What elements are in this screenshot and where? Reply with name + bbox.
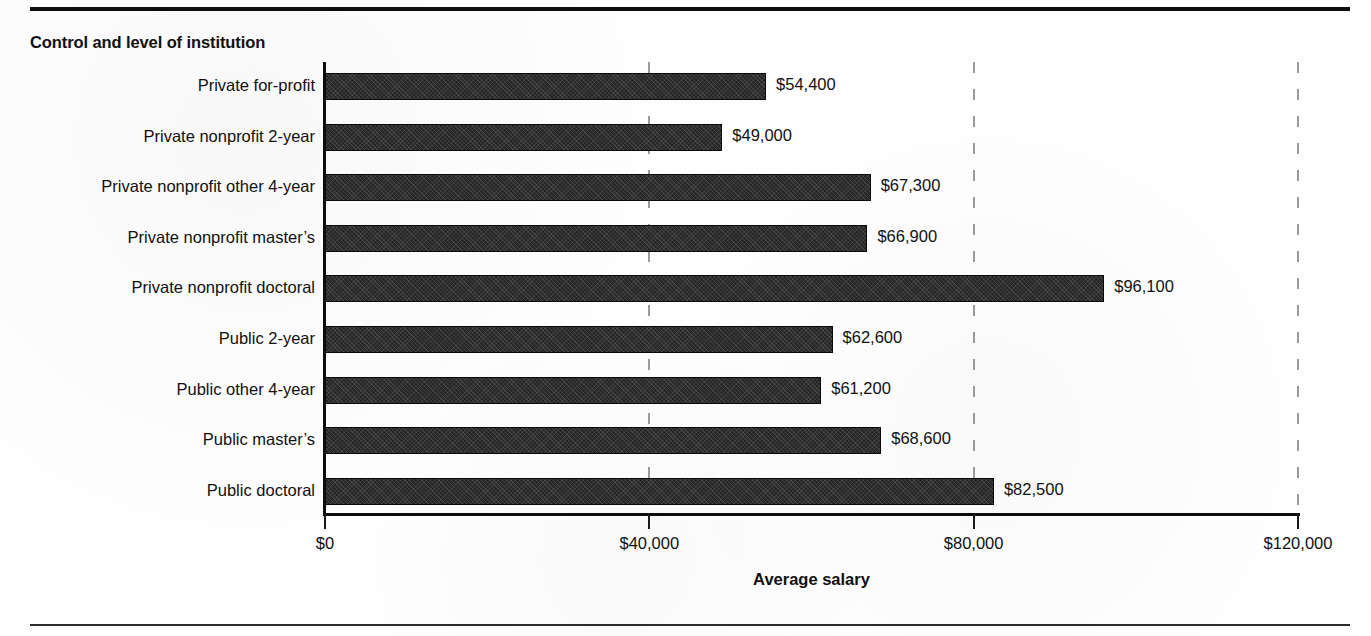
bottom-divider-rule (30, 624, 1350, 626)
x-axis-title: Average salary (325, 570, 1298, 589)
bar-value-label: $54,400 (776, 75, 836, 94)
category-label: Public doctoral (0, 481, 315, 500)
category-label: Private nonprofit master’s (0, 228, 315, 247)
category-label: Public other 4-year (0, 380, 315, 399)
bar[interactable] (325, 275, 1104, 302)
x-axis-line (323, 513, 1300, 516)
bar-value-label: $67,300 (881, 176, 941, 195)
bar[interactable] (325, 377, 821, 404)
x-axis-tick-label: $80,000 (944, 534, 1004, 553)
bar-value-label: $62,600 (843, 328, 903, 347)
bar-row: $68,600Public master’s (325, 427, 1298, 454)
category-label: Private nonprofit 2-year (0, 127, 315, 146)
bar-row: $96,100Private nonprofit doctoral (325, 275, 1298, 302)
bar-value-label: $49,000 (732, 126, 792, 145)
bar-value-label: $61,200 (831, 379, 891, 398)
x-axis-tick (1297, 513, 1299, 529)
bar-value-label: $66,900 (877, 227, 937, 246)
bar[interactable] (325, 478, 994, 505)
bar-row: $49,000Private nonprofit 2-year (325, 124, 1298, 151)
x-axis-tick-label: $120,000 (1264, 534, 1333, 553)
category-label: Private nonprofit doctoral (0, 278, 315, 297)
bar-row: $82,500Public doctoral (325, 478, 1298, 505)
x-axis-tick-label: $0 (316, 534, 334, 553)
bar-row: $67,300Private nonprofit other 4-year (325, 174, 1298, 201)
bar-value-label: $96,100 (1114, 277, 1174, 296)
bar[interactable] (325, 174, 871, 201)
bar[interactable] (325, 225, 867, 252)
bar[interactable] (325, 326, 833, 353)
bar-row: $54,400Private for-profit (325, 73, 1298, 100)
category-label: Private for-profit (0, 76, 315, 95)
bar-row: $66,900Private nonprofit master’s (325, 225, 1298, 252)
x-axis-tick (973, 513, 975, 529)
category-label: Public master’s (0, 430, 315, 449)
category-axis-title: Control and level of institution (30, 33, 265, 52)
bar-value-label: $68,600 (891, 429, 951, 448)
bar-value-label: $82,500 (1004, 480, 1064, 499)
x-axis-tick (324, 513, 326, 529)
x-axis-tick (648, 513, 650, 529)
bar-row: $62,600Public 2-year (325, 326, 1298, 353)
bar-row: $61,200Public other 4-year (325, 377, 1298, 404)
x-axis-tick-label: $40,000 (620, 534, 680, 553)
category-label: Public 2-year (0, 329, 315, 348)
bar[interactable] (325, 427, 881, 454)
top-divider-rule (30, 7, 1350, 11)
bar[interactable] (325, 124, 722, 151)
figure-container: Control and level of institution $0$40,0… (0, 0, 1371, 636)
category-label: Private nonprofit other 4-year (0, 177, 315, 196)
plot-area: $0$40,000$80,000$120,000 $54,400Private … (325, 62, 1298, 513)
bar[interactable] (325, 73, 766, 100)
